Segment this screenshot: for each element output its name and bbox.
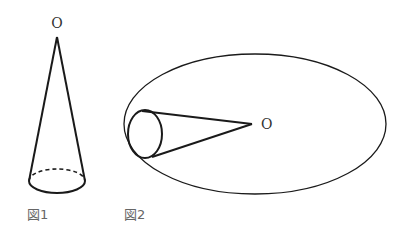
figure-2-caption: 図2	[124, 207, 145, 222]
figure-1-cone: O	[29, 15, 85, 193]
rolling-path-ellipse	[124, 54, 386, 194]
cone-left-edge	[29, 37, 57, 181]
cone-right-edge	[57, 37, 85, 181]
figure-2-apex-label: O	[261, 116, 272, 132]
cone-base-circle	[128, 110, 162, 158]
figure-1-apex-label: O	[51, 15, 62, 31]
cone-base-hidden-arc	[29, 169, 85, 181]
figure-2-rolling-cone: O	[124, 54, 386, 194]
cone-lower-edge	[152, 124, 252, 157]
figure-1-caption: 図1	[27, 207, 48, 222]
cone-base-visible-arc	[29, 181, 85, 193]
diagram-canvas: O O 図1 図2	[0, 0, 405, 241]
